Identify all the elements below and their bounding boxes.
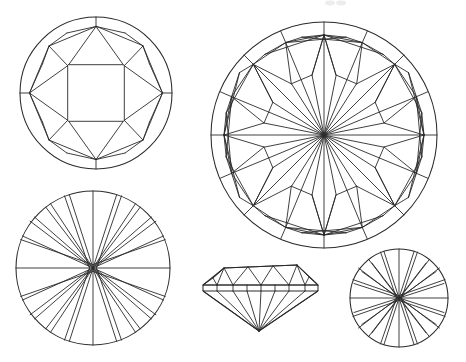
- diagram-canvas: [0, 0, 466, 362]
- pavilion-view-detailed: [211, 22, 437, 248]
- pavilion-view-small: [350, 249, 448, 347]
- diamond-facet-figure: [0, 0, 466, 362]
